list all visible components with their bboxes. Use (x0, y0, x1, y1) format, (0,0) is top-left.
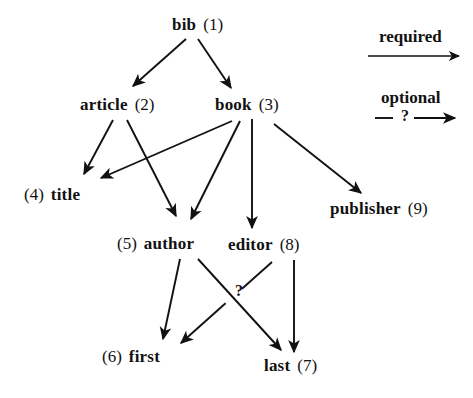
legend-label-optional: optional (381, 89, 441, 106)
edge-author-to-first (163, 259, 180, 339)
optional-question-mark: ? (235, 283, 243, 299)
node-label-author: author (144, 234, 194, 253)
node-book: book(3) (215, 96, 279, 113)
node-title: (4)title (24, 186, 80, 203)
node-label-bib: bib (172, 15, 196, 34)
node-id-book: (3) (252, 95, 279, 114)
edge-bib-to-article (133, 39, 186, 86)
legend-optional-question-mark: ? (401, 108, 409, 124)
edge-author-to-last (198, 259, 281, 350)
node-id-title: (4) (24, 185, 51, 204)
node-id-first: (6) (102, 347, 129, 366)
edge-editor-to-first (181, 303, 226, 343)
legend-label-required: required (379, 28, 442, 45)
node-label-last: last (264, 356, 290, 375)
node-bib: bib(1) (172, 16, 223, 33)
edge-bib-to-book (198, 39, 231, 88)
node-label-publisher: publisher (330, 199, 401, 218)
edge-editor-to-first (242, 262, 272, 289)
node-article: article(2) (80, 96, 154, 113)
node-id-author: (5) (117, 234, 144, 253)
node-label-article: article (80, 95, 128, 114)
node-publisher: publisher(9) (330, 200, 428, 217)
node-first: (6)first (102, 348, 160, 365)
diagram-canvas: bib(1)article(2)book(3)(4)title(5)author… (0, 0, 473, 398)
node-id-publisher: (9) (401, 199, 428, 218)
edge-book-to-title (101, 121, 232, 178)
node-last: last(7) (264, 357, 317, 374)
node-label-title: title (51, 185, 80, 204)
node-id-article: (2) (128, 95, 155, 114)
node-id-last: (7) (290, 356, 317, 375)
node-id-bib: (1) (196, 15, 223, 34)
edge-article-to-author (127, 120, 176, 216)
edge-book-to-publisher (274, 124, 361, 193)
legend-arrows (368, 56, 459, 118)
edge-article-to-title (84, 120, 113, 174)
node-id-editor: (8) (273, 235, 300, 254)
node-label-book: book (215, 95, 252, 114)
node-label-editor: editor (228, 235, 273, 254)
node-author: (5)author (117, 235, 194, 252)
graph-edges (84, 39, 361, 352)
node-label-first: first (129, 347, 160, 366)
node-editor: editor(8) (228, 236, 299, 253)
